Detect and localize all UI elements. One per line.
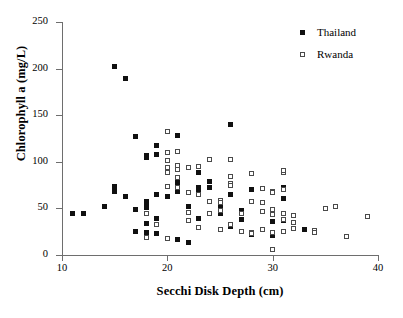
data-point-thailand: [112, 64, 117, 69]
data-point-thailand: [196, 170, 201, 175]
data-point-thailand: [144, 155, 149, 160]
data-point-rwanda: [165, 170, 170, 175]
x-tick-40: [378, 255, 379, 261]
data-point-rwanda: [365, 214, 370, 219]
data-point-rwanda: [228, 157, 233, 162]
data-point-rwanda: [260, 209, 265, 214]
data-point-rwanda: [196, 225, 201, 230]
x-tick-label-20: 20: [147, 262, 187, 273]
x-tick-label-40: 40: [358, 262, 398, 273]
data-point-rwanda: [249, 199, 254, 204]
data-point-thailand: [186, 204, 191, 209]
legend-swatch-thailand-icon: [300, 30, 305, 35]
data-point-thailand: [196, 216, 201, 221]
data-point-thailand: [70, 211, 75, 216]
scatter-chart: 050100150200250 10203040 Chlorophyll a (…: [0, 0, 403, 318]
data-point-rwanda: [281, 217, 286, 222]
data-point-thailand: [81, 211, 86, 216]
data-point-rwanda: [312, 230, 317, 235]
data-point-rwanda: [207, 211, 212, 216]
data-point-thailand: [207, 179, 212, 184]
data-point-rwanda: [144, 235, 149, 240]
data-point-thailand: [154, 216, 159, 221]
data-point-thailand: [239, 217, 244, 222]
data-point-thailand: [154, 152, 159, 157]
data-point-rwanda: [175, 149, 180, 154]
legend-item-thailand: Thailand: [300, 25, 395, 47]
data-point-thailand: [112, 189, 117, 194]
data-point-rwanda: [270, 230, 275, 235]
data-point-rwanda: [144, 211, 149, 216]
data-point-rwanda: [165, 165, 170, 170]
data-point-rwanda: [291, 220, 296, 225]
data-point-rwanda: [165, 184, 170, 189]
data-point-rwanda: [281, 211, 286, 216]
data-point-rwanda: [207, 199, 212, 204]
data-point-thailand: [165, 194, 170, 199]
data-point-thailand: [123, 194, 128, 199]
x-tick-label-10: 10: [42, 262, 82, 273]
legend-label: Rwanda: [317, 47, 353, 61]
data-point-thailand: [228, 192, 233, 197]
data-point-rwanda: [281, 187, 286, 192]
data-point-rwanda: [228, 174, 233, 179]
data-point-rwanda: [323, 206, 328, 211]
data-point-rwanda: [165, 129, 170, 134]
data-point-rwanda: [270, 207, 275, 212]
data-point-thailand: [144, 205, 149, 210]
data-point-rwanda: [291, 226, 296, 231]
data-point-thailand: [154, 192, 159, 197]
data-point-thailand: [175, 237, 180, 242]
data-point-rwanda: [344, 234, 349, 239]
data-point-thailand: [154, 231, 159, 236]
x-axis-line: [62, 255, 379, 256]
data-point-rwanda: [196, 192, 201, 197]
data-point-thailand: [102, 204, 107, 209]
chart-legend: ThailandRwanda: [300, 25, 395, 69]
data-point-thailand: [133, 229, 138, 234]
x-tick-30: [273, 255, 274, 261]
data-point-rwanda: [333, 204, 338, 209]
data-point-rwanda: [281, 229, 286, 234]
data-point-rwanda: [270, 247, 275, 252]
data-point-thailand: [133, 207, 138, 212]
x-tick-10: [62, 255, 63, 261]
data-point-rwanda: [175, 167, 180, 172]
data-point-rwanda: [249, 171, 254, 176]
data-point-rwanda: [249, 231, 254, 236]
data-point-rwanda: [165, 158, 170, 163]
data-point-rwanda: [260, 186, 265, 191]
legend-item-rwanda: Rwanda: [300, 47, 395, 69]
x-axis-title: Secchi Disk Depth (cm): [62, 284, 378, 299]
x-tick-20: [167, 255, 168, 261]
data-point-thailand: [228, 122, 233, 127]
data-point-thailand: [175, 133, 180, 138]
data-point-rwanda: [186, 210, 191, 215]
y-axis-title: Chlorophyll a (mg/L): [14, 9, 29, 199]
data-point-rwanda: [270, 190, 275, 195]
data-point-thailand: [281, 196, 286, 201]
data-point-thailand: [123, 76, 128, 81]
data-point-rwanda: [228, 222, 233, 227]
data-point-thailand: [144, 221, 149, 226]
data-point-rwanda: [270, 212, 275, 217]
legend-label: Thailand: [317, 25, 356, 39]
data-point-rwanda: [207, 157, 212, 162]
data-point-rwanda: [186, 218, 191, 223]
data-point-rwanda: [186, 165, 191, 170]
data-point-rwanda: [239, 211, 244, 216]
data-point-thailand: [249, 187, 254, 192]
legend-swatch-rwanda-icon: [300, 52, 305, 57]
data-point-rwanda: [186, 190, 191, 195]
data-point-rwanda: [291, 213, 296, 218]
data-point-thailand: [207, 185, 212, 190]
data-point-rwanda: [239, 229, 244, 234]
data-point-rwanda: [165, 150, 170, 155]
data-point-rwanda: [228, 183, 233, 188]
data-point-thailand: [154, 143, 159, 148]
data-point-rwanda: [260, 227, 265, 232]
data-point-thailand: [186, 240, 191, 245]
data-point-rwanda: [175, 185, 180, 190]
data-point-rwanda: [260, 200, 265, 205]
data-point-thailand: [133, 134, 138, 139]
